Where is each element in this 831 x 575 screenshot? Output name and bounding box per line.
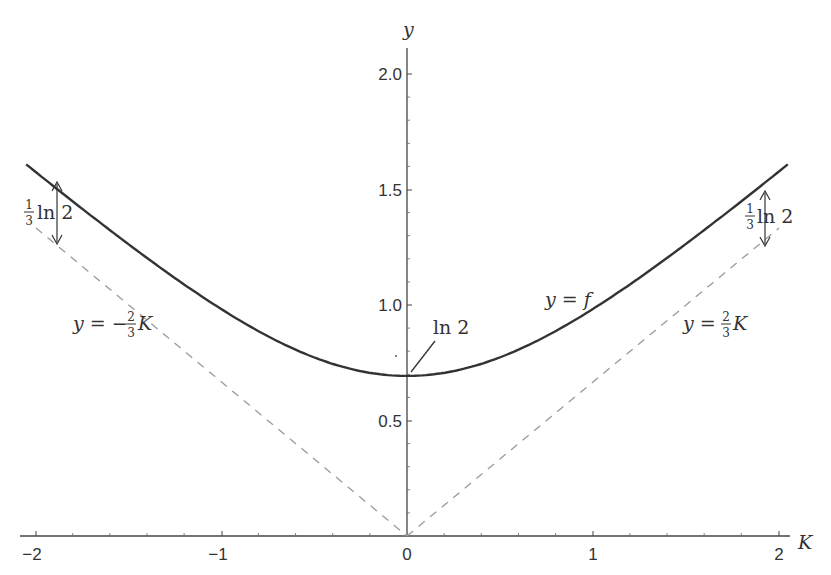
asymptote-left <box>36 228 407 536</box>
x-tick-label: −2 <box>22 545 41 564</box>
left-line-frac-den: 3 <box>127 326 135 340</box>
y-tick-label: 2.0 <box>378 65 402 84</box>
stray-dot <box>395 355 397 357</box>
chart: −2 −1 0 1 2 0.5 1.0 1.5 2.0 K y ln 2 1 3… <box>0 0 831 575</box>
right-line-var: K <box>732 312 749 334</box>
y-ticks <box>407 74 412 421</box>
left-line-frac-num: 2 <box>127 310 135 324</box>
right-line-frac-num: 2 <box>722 310 730 324</box>
curve-label: y = f <box>544 288 594 310</box>
asymptote-right <box>407 228 779 536</box>
y-tick-label: 1.5 <box>378 181 402 200</box>
y-axis-label: y <box>402 18 414 40</box>
x-tick-label: 1 <box>588 545 597 564</box>
right-line-label: y = <box>682 312 716 334</box>
gap-right-frac-num: 1 <box>746 202 754 216</box>
x-tick-label: 2 <box>774 545 783 564</box>
left-line-label: y = − <box>72 312 128 334</box>
right-line-frac-den: 3 <box>722 326 730 340</box>
y-tick-label: 1.0 <box>378 296 402 315</box>
gap-left-frac-den: 3 <box>25 214 33 228</box>
y-tick-label: 0.5 <box>378 412 402 431</box>
gap-right-ln2: ln 2 <box>757 205 793 227</box>
x-axis-label: K <box>797 531 814 553</box>
left-line-var: K <box>137 312 154 334</box>
gap-left-frac-num: 1 <box>25 198 33 212</box>
x-tick-label: −1 <box>208 545 227 564</box>
gap-left-ln2: ln 2 <box>37 201 73 223</box>
x-tick-label: 0 <box>402 545 411 564</box>
gap-right-frac-den: 3 <box>746 218 754 232</box>
ln2-label: ln 2 <box>433 316 469 338</box>
ln2-pointer <box>411 341 435 372</box>
